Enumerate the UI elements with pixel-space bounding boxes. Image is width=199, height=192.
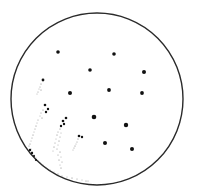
trail-dot (31, 137, 32, 138)
trail-dot (57, 144, 58, 145)
trail-dot (57, 173, 58, 174)
trail-dot (37, 119, 38, 120)
streak-head-dot (29, 149, 31, 151)
trail-dot (38, 88, 39, 89)
trail-dot (60, 167, 61, 168)
streak-head-dot (81, 136, 83, 138)
trail-dot (28, 145, 29, 146)
trail-dot (49, 169, 50, 170)
trail-dot (54, 142, 55, 143)
large-dot (107, 88, 111, 92)
trail-dot (81, 179, 82, 180)
trail-dot (37, 91, 38, 92)
trail-dot (75, 143, 76, 144)
trail-dot (53, 171, 54, 172)
trail-dot (53, 146, 54, 147)
trail-dot (55, 138, 56, 139)
trail-dot (77, 138, 78, 139)
large-dot (130, 147, 134, 151)
streak-head-dot (33, 155, 35, 157)
trail-dot (58, 159, 59, 160)
trail-dot (57, 154, 58, 155)
trail-dot (39, 86, 40, 87)
background (0, 0, 199, 192)
trail-dot (61, 161, 62, 162)
trail-dot (40, 89, 41, 90)
trail-dot (32, 134, 33, 135)
streak-head-dot (78, 135, 81, 138)
trail-dot (45, 167, 46, 168)
trail-dot (59, 164, 60, 165)
trail-dot (74, 145, 75, 146)
trail-dot (29, 143, 30, 144)
trail-dot (72, 149, 73, 150)
streak-head-dot (45, 111, 47, 113)
trail-dot (58, 140, 59, 141)
streak-head-dot (44, 104, 47, 107)
large-dot (124, 123, 128, 127)
trail-dot (87, 180, 88, 181)
trail-dot (40, 83, 41, 84)
trail-dot (73, 147, 74, 148)
large-dot (112, 52, 116, 56)
large-dot (88, 68, 92, 72)
streak-head-dot (35, 159, 37, 161)
trail-dot (85, 180, 86, 181)
streak-head-dot (47, 108, 49, 110)
streak-head-dot (60, 125, 62, 127)
trail-dot (36, 122, 37, 123)
trail-dot (40, 112, 41, 113)
trail-dot (61, 175, 62, 176)
trail-dot (36, 93, 37, 94)
trail-dot (71, 177, 72, 178)
trail-dot (42, 109, 43, 110)
diagram-stage (0, 0, 199, 192)
trail-dot (56, 148, 57, 149)
large-dot (140, 91, 144, 95)
large-dot (92, 115, 97, 120)
trail-dot (42, 164, 43, 165)
trail-dot (76, 141, 77, 142)
trail-dot (59, 151, 60, 152)
trail-dot (37, 160, 38, 161)
trail-dot (30, 140, 31, 141)
large-dot (56, 50, 60, 54)
trail-dot (56, 134, 57, 135)
trail-dot (34, 128, 35, 129)
streak-head-dot (65, 117, 68, 120)
trail-dot (60, 156, 61, 157)
large-dot (68, 91, 72, 95)
trail-dot (35, 125, 36, 126)
trail-dot (60, 132, 61, 133)
trail-dot (76, 178, 77, 179)
large-dot (103, 141, 107, 145)
trail-dot (33, 131, 34, 132)
trail-dot (39, 162, 40, 163)
circular-field-diagram (0, 0, 199, 192)
streak-head-dot (63, 123, 65, 125)
trail-dot (52, 150, 53, 151)
streak-head-dot (42, 79, 45, 82)
trail-dot (59, 128, 60, 129)
trail-dot (57, 131, 58, 132)
trail-dot (59, 136, 60, 137)
trail-dot (66, 176, 67, 177)
streak-head-dot (62, 120, 65, 123)
trail-dot (35, 157, 36, 158)
trail-dot (41, 117, 42, 118)
large-dot (142, 70, 146, 74)
streak-head-dot (31, 152, 33, 154)
trail-dot (39, 115, 40, 116)
